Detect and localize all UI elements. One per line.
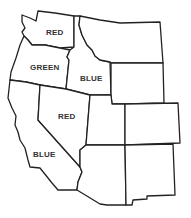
label-washington: RED <box>46 28 64 37</box>
label-idaho: BLUE <box>80 74 103 83</box>
label-california: BLUE <box>33 150 56 159</box>
label-oregon: GREEN <box>30 63 59 72</box>
state-new-mexico <box>125 144 175 205</box>
state-wyoming <box>111 63 164 104</box>
state-arizona <box>77 145 126 205</box>
label-nevada: RED <box>58 112 76 121</box>
state-colorado <box>125 103 180 145</box>
western-us-map: RED GREEN BLUE RED BLUE <box>0 0 191 218</box>
